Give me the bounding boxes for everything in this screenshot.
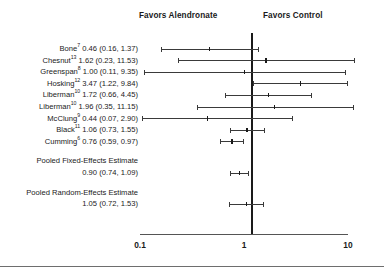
- study-row-label: McClung9 0.44 (0.07, 2.90): [0, 113, 140, 125]
- x-tick-label: 1: [242, 240, 247, 250]
- study-name: Hosking: [47, 79, 74, 88]
- study-6-ci-upper-cap: [292, 116, 293, 121]
- study-name: McClung: [47, 114, 77, 123]
- study-8-ci-upper-cap: [243, 139, 244, 144]
- study-row-label: Hosking12 3.47 (1.22, 9.84): [0, 78, 140, 90]
- study-2-ci-lower-cap: [144, 70, 145, 75]
- study-1-ci-upper-cap: [354, 58, 355, 63]
- study-name: Liberman: [39, 102, 71, 111]
- study-estimate-ci: 0.46 (0.16, 1.37): [80, 44, 138, 53]
- pooled-fixed-title: Pooled Fixed-Effects Estimate: [0, 155, 140, 167]
- plot-area: [140, 0, 384, 273]
- spacer: [0, 147, 140, 155]
- pooled-1-ci-upper-cap: [263, 202, 264, 207]
- pooled-fixed-value: 0.90 (0.74, 1.09): [0, 167, 140, 179]
- pooled-random-title: Pooled Random-Effects Estimate: [0, 187, 140, 199]
- study-name: Chesnut: [42, 56, 70, 65]
- study-6-ci-bar: [142, 118, 292, 119]
- study-estimate-ci: 1.72 (0.66, 4.45): [80, 90, 138, 99]
- study-estimate-ci: 1.06 (0.73, 1.55): [80, 125, 138, 134]
- study-5-point-estimate: [274, 105, 275, 110]
- x-tick-label: 10: [343, 240, 352, 250]
- study-3-ci-upper-cap: [347, 81, 348, 86]
- study-row-label: Black11 1.06 (0.73, 1.55): [0, 124, 140, 136]
- study-2-ci-upper-cap: [345, 70, 346, 75]
- study-estimate-ci: 1.96 (0.35, 11.15): [77, 102, 139, 111]
- study-7-ci-upper-cap: [264, 128, 265, 133]
- study-name: Cumming: [45, 137, 78, 146]
- study-estimate-ci: 0.44 (0.07, 2.90): [80, 114, 138, 123]
- pooled-1-point-estimate: [246, 202, 247, 207]
- study-4-ci-lower-cap: [225, 93, 226, 98]
- x-axis-line: [140, 234, 348, 235]
- study-estimate-ci: 3.47 (1.22, 9.84): [80, 79, 138, 88]
- pooled-random-value: 1.05 (0.72, 1.53): [0, 198, 140, 210]
- study-row-label: Greenspan8 1.00 (0.11, 9.35): [0, 66, 140, 78]
- study-7-point-estimate: [246, 128, 247, 133]
- study-7-ci-lower-cap: [230, 128, 231, 133]
- study-row-label: Liberman10 1.72 (0.66, 4.45): [0, 89, 140, 101]
- study-8-ci-lower-cap: [220, 139, 221, 144]
- pooled-0-point-estimate: [239, 171, 240, 176]
- x-tick-label: 0.1: [134, 240, 146, 250]
- study-0-point-estimate: [209, 47, 210, 52]
- study-3-point-estimate: [300, 81, 301, 86]
- pooled-0-ci-upper-cap: [248, 171, 249, 176]
- forest-plot-figure: Favors Alendronate Favors Control Bone7 …: [0, 0, 384, 273]
- study-0-ci-upper-cap: [258, 47, 259, 52]
- study-estimate-ci: 0.76 (0.59, 0.97): [80, 137, 138, 146]
- study-4-ci-upper-cap: [311, 93, 312, 98]
- study-row-label: Liberman10 1.96 (0.35, 11.15): [0, 101, 140, 113]
- study-0-ci-lower-cap: [161, 47, 162, 52]
- study-5-ci-lower-cap: [197, 105, 198, 110]
- study-1-point-estimate: [265, 58, 266, 63]
- study-5-ci-upper-cap: [353, 105, 354, 110]
- study-label-column: Bone7 0.46 (0.16, 1.37)Chesnut13 1.62 (0…: [0, 43, 140, 210]
- study-6-point-estimate: [207, 116, 208, 121]
- study-4-point-estimate: [268, 93, 269, 98]
- pooled-1-ci-lower-cap: [229, 202, 230, 207]
- study-row-label: Cumming6 0.76 (0.59, 0.97): [0, 136, 140, 148]
- study-3-ci-lower-cap: [253, 81, 254, 86]
- pooled-0-ci-lower-cap: [230, 171, 231, 176]
- footer-divider: [0, 266, 384, 267]
- study-estimate-ci: 1.00 (0.11, 9.35): [81, 67, 138, 76]
- study-estimate-ci: 1.62 (0.23, 11.53): [77, 56, 139, 65]
- study-name: Liberman: [43, 90, 75, 99]
- study-1-ci-lower-cap: [178, 58, 179, 63]
- study-row-label: Chesnut13 1.62 (0.23, 11.53): [0, 55, 140, 67]
- study-name: Greenspan: [40, 67, 78, 76]
- study-name: Black: [56, 125, 75, 134]
- study-6-ci-lower-cap: [142, 116, 143, 121]
- study-8-point-estimate: [231, 139, 232, 144]
- study-name: Bone: [60, 44, 78, 53]
- spacer: [0, 179, 140, 187]
- study-2-point-estimate: [244, 70, 245, 75]
- study-row-label: Bone7 0.46 (0.16, 1.37): [0, 43, 140, 55]
